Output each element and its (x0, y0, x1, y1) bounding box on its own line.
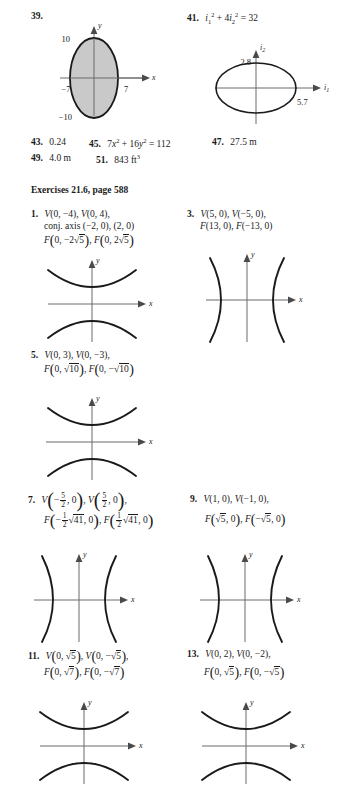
exercise-11-line2: F(0, √7), F(0, −√7) (44, 665, 124, 681)
graph-1-x-arrowhead (138, 301, 146, 308)
graph-5-x-axis-label: x (148, 437, 153, 446)
problem-number-49: 49. (31, 153, 43, 163)
graph-41-svg: i1 i2 2.8 5.7 (205, 38, 335, 128)
graph-3-x-arrowhead (288, 297, 296, 304)
graph-13-hyperbola: x y (194, 694, 326, 786)
problem-number-1: 1. (31, 209, 38, 219)
graph-7-left-branch (42, 556, 53, 642)
section-heading: Exercises 21.6, page 588 (31, 185, 128, 195)
answer-51: 51. 843 ft3 (96, 153, 140, 165)
graph-11-y-arrowhead (81, 702, 88, 710)
graph-41-tick-label-right: 5.7 (297, 97, 308, 107)
graph-5-hyperbola: x y (40, 390, 164, 482)
exercise-5-line2: F(0, √10), F(0, −√10) (44, 362, 134, 378)
graph-7-hyperbola: x y (24, 548, 160, 644)
graph-5-svg: x y (40, 390, 164, 482)
graph-9-x-axis-label: x (296, 595, 301, 604)
graph-7-x-arrowhead (120, 597, 128, 604)
graph-39-y-axis-label: y (97, 21, 102, 30)
graph-7-y-arrowhead (76, 554, 83, 562)
graph-39-x-axis-label: x (151, 73, 156, 82)
exercise-13: 13. V(0, 2), V(0, −2), (187, 649, 271, 659)
graph-39-y-arrowhead (91, 26, 98, 34)
graph-1-svg: x y (40, 252, 164, 344)
graph-3-y-arrowhead (244, 254, 251, 262)
graph-39-tick-label-right: 7 (124, 84, 128, 94)
problem-number-41: 41. (187, 13, 199, 23)
graph-9-y-arrowhead (242, 554, 249, 562)
graph-11-svg: x y (32, 694, 164, 786)
exercise-7-line2: F(−12√41, 0), F(12√41, 0) (44, 511, 153, 531)
answer-47: 47. 27.5 m (212, 137, 257, 147)
graph-39-tick-label-bottom: −10 (59, 112, 72, 122)
graph-9-left-branch (208, 556, 219, 642)
exercise-5-line1: V(0, 3), V(0, −3), (45, 350, 110, 360)
graph-13-y-arrowhead (243, 702, 250, 710)
graph-39-x-arrowhead (142, 75, 150, 82)
exercise-9-line2: F(√5, 0), F(−√5, 0) (205, 512, 285, 528)
exercise-7-frac-den: 2 (60, 501, 66, 509)
graph-9-svg: x y (190, 548, 326, 644)
graph-3-y-axis-label: y (250, 250, 255, 259)
graph-1-y-axis-label: y (95, 256, 100, 265)
exercise-7-radicand: 41 (73, 514, 84, 525)
graph-7-right-branch (105, 556, 116, 642)
graph-39-svg: x y 10 −10 −7 7 (46, 16, 166, 128)
graph-3-hyperbola: x y (198, 248, 322, 346)
graph-1-y-arrowhead (89, 260, 96, 268)
graph-13-x-axis-label: x (300, 741, 305, 750)
graph-7-x-axis-label: x (130, 595, 135, 604)
problem-number-13: 13. (187, 649, 199, 659)
graph-5-y-arrowhead (89, 398, 96, 406)
exercise-9: 9. V(1, 0), V(−1, 0), (190, 494, 269, 504)
graph-5-x-arrowhead (138, 439, 146, 446)
problem-number-9: 9. (190, 494, 197, 504)
graph-3-x-axis-label: x (298, 295, 303, 304)
exercise-7: 7. V(−52, 0), V(52, 0), (28, 489, 127, 512)
answer-49: 49. 4.0 m (31, 153, 71, 163)
exercise-7-line1: V(−52, 0), V(52, 0), (42, 495, 127, 505)
exercise-11: 11. V(0, √5), V(0, −√5), (28, 649, 128, 665)
answer-49-value: 4.0 m (49, 153, 71, 163)
problem-number-51: 51. (96, 155, 108, 165)
graph-1-x-axis-label: x (148, 299, 153, 308)
answer-51-value: 843 ft3 (114, 155, 140, 165)
graph-41-x-axis-label: i1 (324, 83, 329, 93)
graph-9-hyperbola: x y (190, 548, 326, 644)
graph-39-ellipse: x y 10 −10 −7 7 (46, 16, 166, 128)
problem-number-3: 3. (187, 209, 194, 219)
answer-41-equation: i12 + 4i22 = 32 (205, 13, 258, 23)
graph-11-x-arrowhead (128, 743, 136, 750)
problem-number-47: 47. (212, 137, 224, 147)
graph-7-y-axis-label: y (82, 550, 87, 559)
exercise-1-line2: conj. axis (−2, 0), (2, 0) (44, 221, 134, 231)
exercise-3-line2: F(13, 0), F(−13, 0) (200, 221, 272, 231)
problem-number-43: 43. (31, 137, 43, 147)
exercise-9-line1: V(1, 0), V(−1, 0), (204, 494, 269, 504)
problem-number-11: 11. (28, 651, 39, 661)
graph-9-right-branch (271, 556, 282, 642)
graph-13-svg: x y (194, 694, 326, 786)
answer-41: 41. i12 + 4i22 = 32 (187, 11, 258, 25)
answer-45: 45. 7x2 + 16y2 = 112 (89, 137, 171, 149)
exercise-13-line2: F(0, √5), F(0, −√5) (204, 665, 284, 681)
graph-41-y-arrowhead (253, 50, 260, 58)
exercise-1: 1. V(0, −4), V(0, 4), (31, 209, 110, 219)
graph-39-tick-label-top: 10 (62, 34, 71, 44)
graph-3-svg: x y (198, 248, 322, 346)
graph-11-hyperbola: x y (32, 694, 164, 786)
graph-13-x-arrowhead (290, 743, 298, 750)
answer-key-page: 39. x y 10 −10 −7 7 41. i12 + 4i22 = 32 (0, 0, 341, 788)
graph-13-y-axis-label: y (249, 698, 254, 707)
problem-number-45: 45. (89, 139, 101, 149)
graph-11-y-axis-label: y (87, 698, 92, 707)
graph-41-x-arrowhead (313, 85, 321, 92)
graph-7-svg: x y (24, 548, 160, 644)
problem-number-5: 5. (31, 350, 38, 360)
graph-41-ellipse: i1 i2 2.8 5.7 (205, 38, 335, 128)
exercise-13-line1: V(0, 2), V(0, −2), (205, 649, 270, 659)
graph-39-tick-label-left: −7 (61, 84, 70, 94)
graph-1-hyperbola: x y (40, 252, 164, 344)
problem-number-39: 39. (31, 11, 43, 21)
exercise-1-line1: V(0, −4), V(0, 4), (45, 209, 110, 219)
